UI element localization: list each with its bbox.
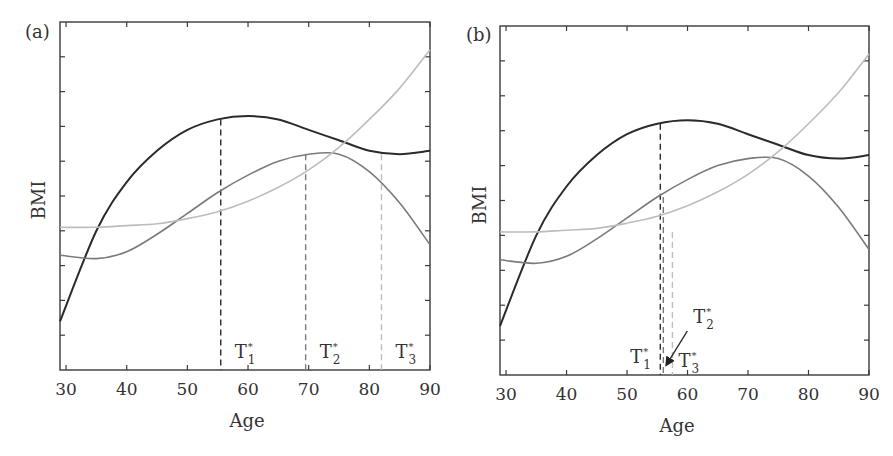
threshold-label-t1: T*1 bbox=[235, 341, 256, 367]
panel-a-label: (a) bbox=[25, 21, 50, 42]
trajectory-line-3 bbox=[60, 50, 430, 228]
x-tick-label: 80 bbox=[359, 379, 381, 399]
x-tick-label: 50 bbox=[616, 384, 638, 404]
x-tick-label: 40 bbox=[556, 384, 578, 404]
x-tick-label: 40 bbox=[116, 379, 138, 399]
threshold-label-t2: T*2 bbox=[693, 306, 714, 332]
threshold-label-t3: T*3 bbox=[678, 350, 699, 376]
panel-b-plot-area: 30405060708090T*1T*2T*3 bbox=[495, 26, 880, 404]
trajectory-line-2 bbox=[500, 157, 869, 263]
x-tick-label: 60 bbox=[677, 384, 699, 404]
x-tick-label: 30 bbox=[55, 379, 77, 399]
panel-b-xlabel: Age bbox=[658, 415, 694, 436]
x-tick-label: 30 bbox=[495, 384, 517, 404]
panel-b-label: (b) bbox=[466, 24, 492, 45]
trajectory-line-1 bbox=[500, 120, 869, 326]
threshold-label-t1: T*1 bbox=[630, 346, 651, 372]
x-tick-label: 60 bbox=[237, 379, 259, 399]
panel-a: (a) BMI 30405060708090T*1T*2T*3 Age bbox=[25, 21, 441, 431]
panel-a-ylabel: BMI bbox=[28, 181, 49, 220]
x-tick-label: 70 bbox=[737, 384, 759, 404]
trajectory-line-2 bbox=[60, 153, 430, 259]
threshold-label-t2: T*2 bbox=[320, 341, 341, 367]
panel-b-ylabel: BMI bbox=[469, 186, 490, 225]
x-tick-label: 70 bbox=[298, 379, 320, 399]
panel-b-ylabel-text: BMI bbox=[469, 186, 490, 225]
x-tick-label: 90 bbox=[419, 379, 441, 399]
figure-two-panels: (a) BMI 30405060708090T*1T*2T*3 Age (b) … bbox=[0, 0, 893, 456]
panel-a-ylabel-text: BMI bbox=[28, 181, 49, 220]
panel-a-xlabel: Age bbox=[228, 410, 264, 431]
x-tick-label: 80 bbox=[798, 384, 820, 404]
threshold-label-t3: T*3 bbox=[395, 341, 416, 367]
x-tick-label: 90 bbox=[858, 384, 880, 404]
panel-b: (b) BMI 30405060708090T*1T*2T*3 Age bbox=[466, 24, 880, 436]
x-tick-label: 50 bbox=[177, 379, 199, 399]
trajectory-line-1 bbox=[60, 116, 430, 321]
panel-a-plot-area: 30405060708090T*1T*2T*3 bbox=[55, 22, 441, 399]
trajectory-line-3 bbox=[500, 54, 869, 232]
